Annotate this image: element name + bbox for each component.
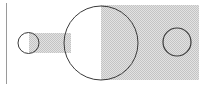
diagram-canvas	[0, 0, 208, 86]
geometric-diagram	[0, 0, 208, 86]
shaded-rectangle	[101, 5, 199, 80]
